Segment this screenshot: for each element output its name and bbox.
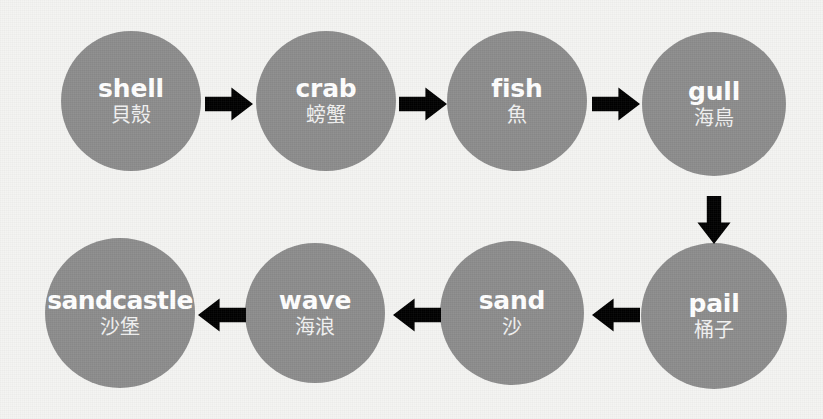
arrow-right-icon	[399, 86, 447, 122]
node-label-en: shell	[98, 76, 164, 102]
arrow-left-icon	[592, 297, 640, 333]
node-sand[interactable]: sand 沙	[440, 241, 584, 385]
arrow-right-icon	[205, 86, 253, 122]
node-label-en: pail	[688, 291, 739, 317]
node-label-zh: 海浪	[295, 316, 335, 338]
node-label-en: wave	[279, 288, 351, 314]
node-label-zh: 海鳥	[694, 107, 734, 129]
node-label-zh: 桶子	[694, 319, 734, 341]
node-label-en: sand	[479, 288, 546, 314]
arrow-left-icon	[393, 297, 441, 333]
node-label-en: gull	[688, 79, 740, 105]
arrow-down-icon	[696, 196, 732, 244]
node-label-zh: 螃蟹	[306, 104, 346, 126]
node-label-en: fish	[491, 76, 542, 102]
node-shell[interactable]: shell 貝殼	[61, 31, 201, 171]
node-label-en: crab	[295, 76, 356, 102]
node-label-en: sandcastle	[47, 288, 193, 314]
node-label-zh: 貝殼	[111, 104, 151, 126]
flowchart-canvas: shell 貝殼 crab 螃蟹 fish 魚 gull 海鳥 pail 桶子 …	[0, 0, 823, 419]
node-label-zh: 沙堡	[100, 316, 140, 338]
node-pail[interactable]: pail 桶子	[641, 243, 787, 389]
node-fish[interactable]: fish 魚	[447, 31, 587, 171]
node-gull[interactable]: gull 海鳥	[642, 32, 786, 176]
node-label-zh: 魚	[507, 104, 527, 126]
node-wave[interactable]: wave 海浪	[245, 243, 385, 383]
arrow-right-icon	[592, 86, 640, 122]
arrow-left-icon	[198, 297, 246, 333]
node-crab[interactable]: crab 螃蟹	[256, 31, 396, 171]
node-sandcastle[interactable]: sandcastle 沙堡	[45, 238, 195, 388]
node-label-zh: 沙	[502, 316, 522, 338]
